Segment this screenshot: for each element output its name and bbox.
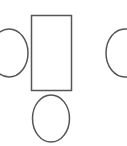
left-oval bbox=[0, 29, 28, 77]
center-rectangle bbox=[32, 16, 72, 91]
right-oval bbox=[106, 29, 127, 77]
diagram-canvas bbox=[0, 0, 127, 146]
bottom-oval bbox=[33, 95, 70, 142]
